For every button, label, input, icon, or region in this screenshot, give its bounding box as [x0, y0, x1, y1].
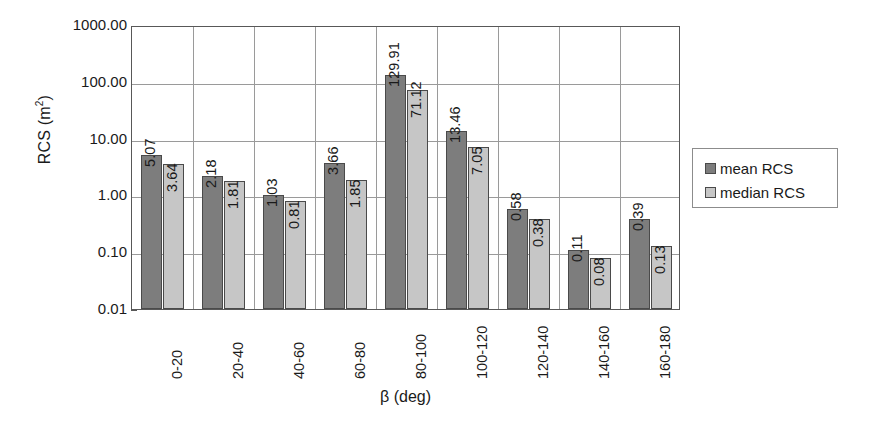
gridline-vertical — [376, 27, 377, 309]
x-axis-tick-label-160-180: 160-180 — [657, 326, 673, 379]
bar-value-label: 2.18 — [203, 160, 219, 189]
x-axis-label-layer: 0-2020-4040-6060-8080-100100-120120-1401… — [131, 313, 680, 383]
bar-mean-120-140 — [507, 209, 528, 309]
y-axis-tick-label: 100.00 — [31, 73, 127, 90]
bar-value-label: 0.13 — [652, 245, 668, 274]
legend-item-median-rcs: median RCS — [705, 180, 837, 204]
bar-value-label: 3.66 — [325, 147, 341, 176]
gridline-vertical — [254, 27, 255, 309]
bar-mean-80-100 — [385, 75, 406, 309]
y-axis-tick-label: 1000.00 — [31, 16, 127, 33]
bar-value-label: 0.08 — [591, 257, 607, 286]
bar-value-label: 0.81 — [286, 200, 302, 229]
bar-value-label: 0.58 — [508, 192, 524, 221]
bar-value-label: 1.85 — [347, 180, 363, 209]
bar-value-label: 129.91 — [386, 42, 402, 87]
x-axis-tick-label-120-140: 120-140 — [535, 326, 551, 379]
legend: mean RCS median RCS — [692, 148, 838, 208]
gridline-vertical — [620, 27, 621, 309]
bar-value-label: 1.81 — [225, 180, 241, 209]
bar-value-label: 0.39 — [630, 202, 646, 231]
x-axis-tick-label-20-40: 20-40 — [230, 342, 246, 379]
bar-mean-40-60 — [263, 195, 284, 309]
plot-area: 5.073.642.181.811.030.813.661.85129.9171… — [131, 26, 680, 310]
bar-value-label: 13.46 — [447, 106, 463, 143]
y-axis-tick-label: 10.00 — [31, 130, 127, 147]
x-axis-tick-label-100-120: 100-120 — [474, 326, 490, 379]
y-axis-tick-layer: 1000.00100.0010.001.000.100.01 — [27, 26, 127, 310]
bar-value-label: 0.11 — [569, 234, 585, 262]
legend-label-mean-rcs: mean RCS — [720, 160, 793, 177]
y-axis-tick-label: 0.10 — [31, 243, 127, 260]
bar-mean-60-80 — [324, 163, 345, 309]
y-axis-tick-mark — [131, 310, 137, 311]
x-axis-tick-label-0-20: 0-20 — [169, 350, 185, 379]
bar-value-label: 5.07 — [142, 139, 158, 168]
gridline-vertical — [193, 27, 194, 309]
x-axis-tick-label-60-80: 60-80 — [352, 342, 368, 379]
gridline-vertical — [437, 27, 438, 309]
y-axis-tick-label: 0.01 — [31, 300, 127, 317]
x-axis-title: β (deg) — [131, 388, 680, 406]
bar-value-label: 71.12 — [408, 81, 424, 118]
bar-median-80-100 — [407, 90, 428, 309]
bar-value-label: 7.05 — [469, 147, 485, 176]
legend-label-median-rcs: median RCS — [720, 184, 805, 201]
legend-swatch-median-rcs — [705, 187, 716, 198]
bar-mean-160-180 — [629, 219, 650, 309]
bar-value-label: 0.38 — [530, 219, 546, 248]
bar-mean-20-40 — [202, 176, 223, 309]
gridline-vertical — [498, 27, 499, 309]
bar-value-label: 1.03 — [264, 178, 280, 207]
x-axis-tick-label-140-160: 140-160 — [596, 326, 612, 379]
x-axis-tick-label-40-60: 40-60 — [291, 342, 307, 379]
x-axis-tick-label-80-100: 80-100 — [413, 334, 429, 379]
bar-mean-0-20 — [141, 155, 162, 309]
bar-mean-100-120 — [446, 131, 467, 309]
legend-item-mean-rcs: mean RCS — [705, 156, 837, 180]
rcs-bar-chart: RCS (m2) 1000.00100.0010.001.000.100.01 … — [0, 0, 881, 432]
gridline-vertical — [559, 27, 560, 309]
gridline-vertical — [315, 27, 316, 309]
y-axis-tick-label: 1.00 — [31, 186, 127, 203]
legend-swatch-mean-rcs — [705, 163, 716, 174]
bar-value-label: 3.64 — [164, 163, 180, 192]
